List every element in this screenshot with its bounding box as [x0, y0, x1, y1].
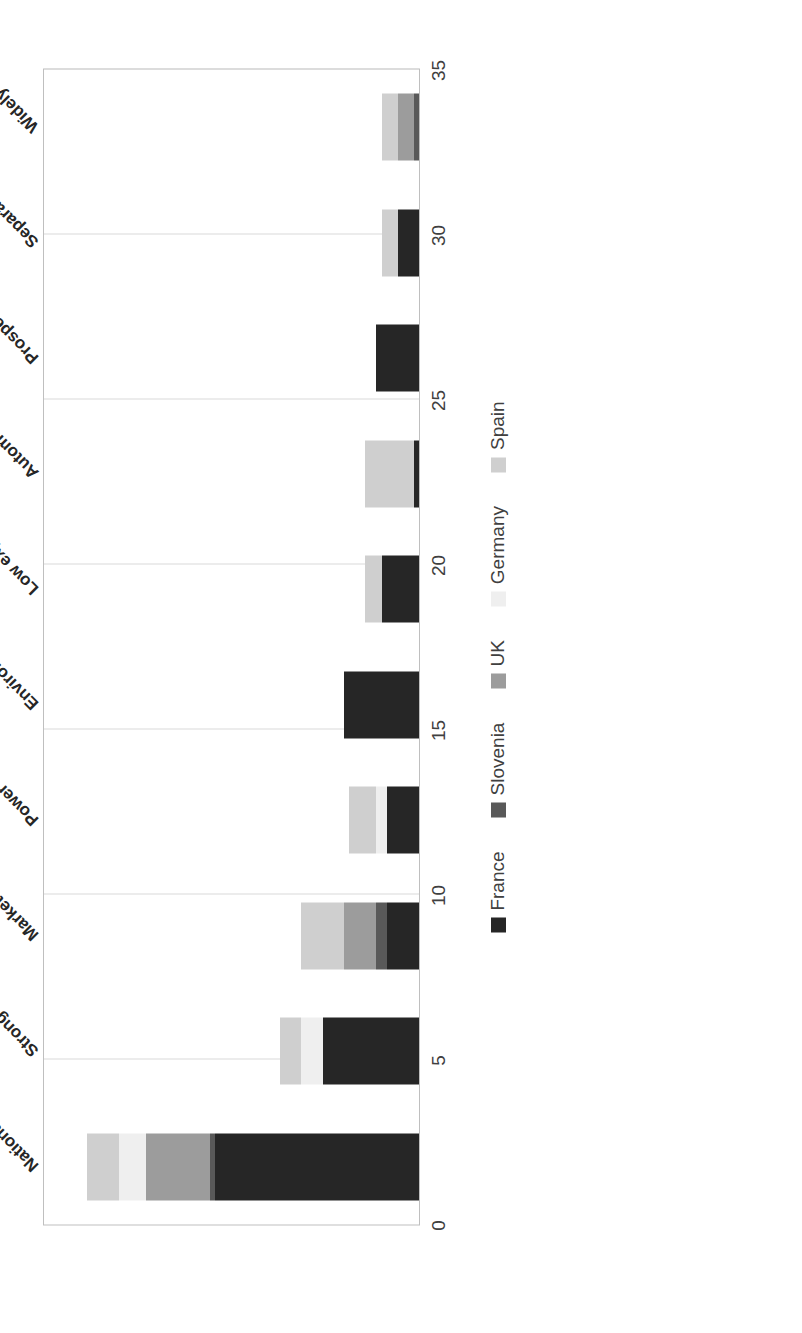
- bar-stack: [349, 786, 419, 853]
- bar-stack: [376, 324, 419, 391]
- category-label: Separate coexistence with batteries: [0, 33, 43, 251]
- bar-segment: [215, 1133, 419, 1200]
- bar-stack: [365, 555, 419, 622]
- bar-segment: [382, 555, 420, 622]
- value-tick-label: 5: [428, 1055, 450, 1066]
- chart-figure: National differences and specificitiesSt…: [0, 0, 802, 1333]
- category-label: Market development in near term: [0, 742, 43, 945]
- bar-segment: [301, 902, 344, 969]
- category-label: Environmental goals will drive H2 use: [0, 483, 43, 713]
- legend-item-france[interactable]: France: [487, 851, 509, 932]
- value-tick-label: 15: [428, 719, 450, 740]
- legend-item-spain[interactable]: Spain: [487, 401, 509, 472]
- legend-swatch-icon: [491, 591, 506, 606]
- plot-area: [43, 68, 420, 1225]
- bar-segment: [119, 1133, 146, 1200]
- bar-segment: [280, 1017, 301, 1084]
- bar-segment: [146, 1133, 210, 1200]
- bar-segment: [301, 1017, 322, 1084]
- bar-segment: [376, 902, 387, 969]
- legend-label: Spain: [487, 401, 509, 450]
- bar-stack: [365, 440, 419, 507]
- legend-item-germany[interactable]: Germany: [487, 506, 509, 606]
- bar-segment: [382, 93, 398, 160]
- legend-swatch-icon: [491, 673, 506, 688]
- bar-segment: [414, 440, 419, 507]
- bar-segment: [323, 1017, 419, 1084]
- bar-segment: [376, 786, 387, 853]
- bar-segment: [365, 555, 381, 622]
- value-tick-label: 30: [428, 224, 450, 245]
- bar-segment: [387, 786, 419, 853]
- legend-item-slovenia[interactable]: Slovenia: [487, 722, 509, 817]
- value-tick-label: 20: [428, 554, 450, 575]
- category-label: Power to gas: [0, 740, 43, 829]
- bar-segment: [365, 440, 413, 507]
- bar-segment: [344, 902, 376, 969]
- bar-segment: [376, 324, 419, 391]
- legend-label: Germany: [487, 506, 509, 584]
- legend-swatch-icon: [491, 802, 506, 817]
- gridline: [44, 563, 419, 564]
- gridline: [44, 233, 419, 234]
- bar-segment: [398, 93, 414, 160]
- value-axis: 05101520253035: [424, 68, 464, 1225]
- bar-stack: [382, 209, 419, 276]
- legend-swatch-icon: [491, 917, 506, 932]
- legend-label: France: [487, 851, 509, 910]
- value-tick-label: 25: [428, 389, 450, 410]
- bar-stack: [382, 93, 419, 160]
- bar-segment: [87, 1133, 119, 1200]
- bar-stack: [87, 1133, 419, 1200]
- category-label: Strong potential but uncertain future: [0, 837, 43, 1060]
- category-label: National differences and specificities: [0, 949, 43, 1175]
- value-tick-label: 10: [428, 884, 450, 905]
- value-tick-label: 0: [428, 1220, 450, 1231]
- bar-stack: [280, 1017, 419, 1084]
- bar-stack: [344, 671, 419, 738]
- gridline: [44, 893, 419, 894]
- legend-swatch-icon: [491, 457, 506, 472]
- bar-stack: [301, 902, 419, 969]
- category-axis: National differences and specificitiesSt…: [0, 68, 43, 1225]
- bar-segment: [349, 786, 376, 853]
- gridline: [44, 68, 419, 69]
- bar-segment: [344, 671, 419, 738]
- chart-legend: FranceSloveniaUKGermanySpain: [487, 0, 509, 1333]
- category-label: Automobile use critical to FC future: [0, 265, 43, 483]
- value-tick-label: 35: [428, 59, 450, 80]
- bar-segment: [382, 209, 398, 276]
- bar-segment: [398, 209, 419, 276]
- legend-label: UK: [487, 640, 509, 666]
- bar-segment: [414, 93, 419, 160]
- legend-label: Slovenia: [487, 722, 509, 795]
- category-label: Widely prevalent in long term: [0, 0, 43, 136]
- gridline: [44, 398, 419, 399]
- bar-segment: [387, 902, 419, 969]
- legend-item-uk[interactable]: UK: [487, 640, 509, 688]
